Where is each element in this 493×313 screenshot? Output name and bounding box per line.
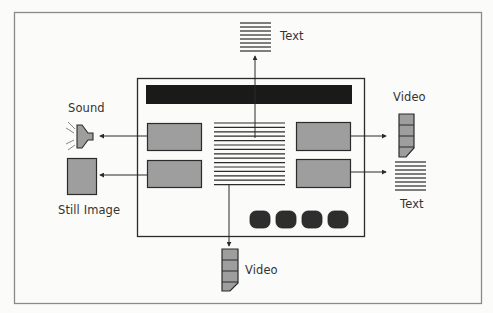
image-box-top-left: [148, 124, 202, 151]
text-block: [214, 123, 285, 185]
speaker-icon: [66, 122, 93, 150]
image-box-bottom-right: [297, 160, 351, 188]
image-box-top-right: [297, 123, 351, 151]
nav-button: [250, 211, 270, 228]
central-page: [138, 79, 365, 237]
still-image-icon: [68, 159, 97, 195]
film-strip-icon: [222, 249, 238, 291]
label-video-bottom: Video: [245, 263, 278, 277]
label-video-right: Video: [393, 90, 426, 104]
film-strip-icon: [399, 114, 414, 157]
nav-button: [302, 211, 322, 228]
nav-button: [328, 211, 348, 228]
diagram-canvas: Text Sound Still Image Video Text Video: [0, 0, 493, 313]
title-bar: [146, 85, 352, 104]
nav-button: [276, 211, 296, 228]
label-sound: Sound: [68, 101, 105, 115]
label-text-top: Text: [280, 29, 304, 43]
label-still-image: Still Image: [58, 203, 120, 217]
label-text-right: Text: [400, 197, 424, 211]
text-lines-icon: [395, 162, 426, 190]
text-lines-icon: [240, 23, 271, 51]
image-box-bottom-left: [148, 161, 202, 188]
